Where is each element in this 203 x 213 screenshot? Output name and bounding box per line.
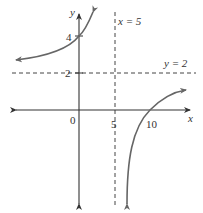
y-tick-4-label: 4 xyxy=(66,31,72,43)
y-tick-2-label: 2 xyxy=(65,67,71,79)
rational-function-graph: y x 0 5 10 2 4 x = 5 y = 2 xyxy=(0,0,203,213)
y-axis-label: y xyxy=(69,6,75,18)
origin-label: 0 xyxy=(70,114,76,126)
x-tick-5-label: 5 xyxy=(111,118,117,130)
right-branch-curve xyxy=(127,90,186,204)
horizontal-asymptote-label: y = 2 xyxy=(163,57,188,69)
vertical-asymptote-label: x = 5 xyxy=(117,15,142,27)
x-axis-label: x xyxy=(187,112,193,124)
x-tick-10-label: 10 xyxy=(146,118,158,130)
